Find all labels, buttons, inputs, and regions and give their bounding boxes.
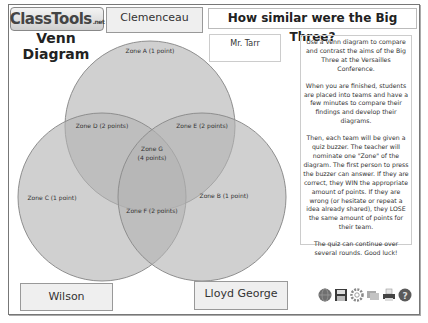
save-icon[interactable] [334, 288, 348, 302]
instructions-p2: When you are finished, students are plac… [303, 82, 409, 127]
clemenceau-name-box[interactable]: Clemenceau [106, 7, 203, 33]
svg-text:?: ? [402, 291, 407, 301]
settings-icon[interactable] [350, 288, 364, 302]
globe-icon[interactable] [318, 288, 332, 302]
instructions-p1: Use a Venn diagram to compare and contra… [303, 38, 409, 74]
windows-icon[interactable] [366, 288, 380, 302]
toolbar: ? [318, 288, 412, 302]
zone-b-label: Zone B (1 point) [200, 192, 249, 200]
print-icon[interactable] [382, 288, 396, 302]
zone-g-label-line2: (4 points) [138, 154, 167, 162]
zone-c-label: Zone C (1 point) [28, 194, 77, 202]
question-header[interactable]: How similar were the Big Three? [208, 8, 417, 29]
lloyd-george-name-box[interactable]: Lloyd George [194, 281, 288, 310]
teacher-name-box[interactable]: Mr. Tarr [209, 34, 281, 62]
zone-e-label: Zone E (2 points) [176, 122, 228, 130]
wilson-name-box[interactable]: Wilson [20, 283, 113, 311]
zone-f-label: Zone F (2 points) [126, 207, 177, 215]
instructions-p4: The quiz can continue over several round… [303, 240, 409, 258]
instructions-panel[interactable]: Use a Venn diagram to compare and contra… [300, 35, 412, 245]
instructions-p3: Then, each team will be given a quiz buz… [303, 134, 409, 232]
zone-g-label-line1: Zone G [141, 145, 163, 152]
zone-d-label: Zone D (2 points) [76, 122, 129, 130]
help-icon[interactable]: ? [398, 288, 412, 302]
zone-a-label: Zone A (1 point) [126, 47, 175, 55]
